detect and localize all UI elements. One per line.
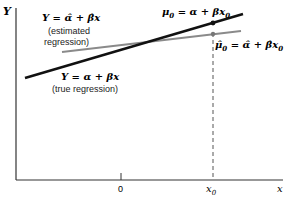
x0-tick-label: x0 — [206, 183, 217, 197]
true-caption: (true regression) — [52, 84, 118, 94]
mu0-hat-point — [211, 32, 215, 36]
regression-diagram: Y x 0 x0 Y = α̂ + β̂x (estimated regress… — [0, 0, 288, 201]
estimated-caption-1: (estimated — [48, 26, 90, 36]
estimated-equation: Y = α̂ + β̂x — [42, 12, 101, 23]
origin-tick-label: 0 — [118, 184, 123, 194]
y-axis-label: Y — [3, 5, 12, 18]
estimated-caption-2: regression) — [44, 37, 89, 47]
x-axis-label: x — [277, 183, 283, 194]
mu0-label: μ0 = α + βx0 — [162, 6, 230, 20]
mu0-hat-label: μ̂0 = α̂ + β̂x0 — [215, 39, 283, 53]
true-equation: Y = α + βx — [61, 71, 120, 82]
mu0-point — [211, 21, 216, 26]
